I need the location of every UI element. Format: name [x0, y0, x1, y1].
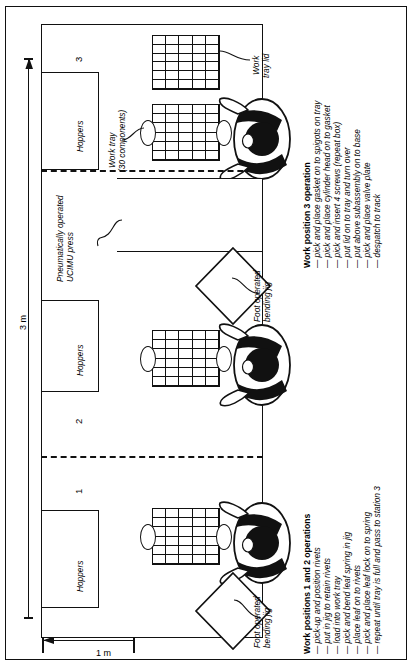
- figure-canvas: 3 m 1 m Hoppers 3 Work tray lid: [0, 0, 413, 666]
- work-tray-lid-leader: [220, 48, 254, 64]
- ops-station3-item: — despatch to track: [373, 194, 383, 268]
- work-tray-lid: [152, 35, 220, 90]
- ops-text: put above subassembly on to base: [352, 129, 362, 257]
- bending-jig-lower-label-line2: bending jig: [263, 608, 273, 648]
- ucimu-press-leader: [96, 216, 124, 248]
- dimension-label-1m: 1 m: [96, 648, 111, 658]
- ops-station12-title: Work positions 1 and 2 operations: [302, 514, 312, 654]
- work-tray-station-1: [152, 508, 220, 565]
- ucimu-press-label-line2: UCIMU press: [66, 232, 76, 282]
- ops-text: load into work tray: [332, 576, 342, 643]
- station-divider-1-2: [41, 456, 263, 458]
- work-tray-station-3: [152, 104, 220, 161]
- work-tray-handle-1-left: [140, 524, 156, 550]
- work-tray-sublabel: (30 components): [118, 110, 128, 172]
- ucimu-press-table: [117, 178, 263, 252]
- hopper-label-3: Hoppers: [76, 121, 86, 152]
- dimension-line-3m: [28, 58, 29, 618]
- work-tray-handle-2-left: [140, 346, 156, 372]
- bending-jig-upper-label-line2: bending jig: [263, 282, 273, 322]
- ops-text: pick and place gasket on to spigots on t…: [312, 101, 322, 258]
- ops-text: pick and place leaf lock on to spring: [362, 512, 372, 643]
- dimension-arrowhead-3m-top: [25, 58, 34, 70]
- ops-text: pick and place cylinder head on to gaske…: [322, 105, 332, 257]
- dimension-line-1m: [42, 640, 134, 641]
- ops-station12-item: — repeat until tray is full and pass to …: [373, 486, 383, 654]
- work-tray-lid-label-line2: tray lid: [262, 54, 272, 78]
- ops-text: pick and place valve plate: [362, 162, 372, 257]
- ops-text: put lid on to tray and turn over: [342, 147, 352, 257]
- ops-text: put in jig to retain rivets: [322, 558, 332, 643]
- hopper-station-2: [41, 300, 99, 392]
- ops-text: place leaf on to rivets: [352, 565, 362, 643]
- ops-text: pick and insert 4 screws (repeat box): [332, 122, 342, 258]
- ops-text: repeat until tray is full and pass to st…: [372, 486, 382, 643]
- ops-text: pick-up and position rivets: [312, 547, 322, 643]
- work-tray-station-2: [152, 330, 220, 387]
- station-divider-3: [41, 170, 263, 172]
- hopper-station-3: [41, 72, 99, 170]
- ops-text: pick and bend leaf spring in jig: [342, 532, 352, 644]
- worker-figure-station-2: [218, 322, 294, 408]
- station-number-2: 2: [73, 419, 84, 424]
- hopper-label-2: Hoppers: [76, 345, 86, 376]
- station-number-3: 3: [73, 57, 84, 62]
- dimension-arrow-3m-bottom: [24, 617, 33, 619]
- hopper-label-1: Hoppers: [76, 561, 86, 592]
- ops-station3-title: Work position 3 operation: [302, 162, 312, 268]
- station-number-1: 1: [73, 489, 84, 494]
- dimension-label-3m: 3 m: [18, 315, 29, 330]
- ops-text: despatch to track: [372, 194, 382, 257]
- hopper-station-1: [41, 510, 99, 608]
